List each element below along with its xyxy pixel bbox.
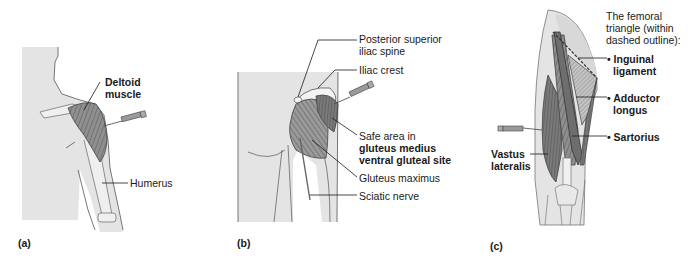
label-iliac-crest: Iliac crest (359, 64, 403, 76)
label-sartorius: • Sartorius (607, 131, 660, 143)
injection-sites-figure (0, 0, 698, 265)
label-sciatic-nerve: Sciatic nerve (359, 190, 419, 202)
label-gluteus-medius: gluteus medius (359, 142, 436, 154)
panel-c-thigh-illustration (498, 10, 607, 225)
label-inguinal-ligament-line2: ligament (613, 65, 656, 77)
label-posterior-superior-iliac-spine-line1: Posterior superior (359, 33, 442, 45)
label-femoral-triangle-line2: triangle (within (606, 22, 674, 34)
label-femoral-triangle-line3: dashed outline): (606, 34, 681, 46)
label-humerus: Humerus (130, 177, 173, 189)
panel-letter-b: (b) (237, 237, 250, 249)
label-adductor-longus-line2: longus (613, 104, 647, 116)
syringe-icon-a (104, 111, 146, 126)
label-safe-area-line1: Safe area in (359, 130, 416, 142)
label-deltoid-line1: Deltoid (105, 76, 141, 88)
syringe-icon-b (334, 81, 374, 104)
label-deltoid-line2: muscle (105, 88, 141, 100)
panel-letter-c: (c) (490, 240, 503, 252)
label-inguinal-ligament-line1: • Inguinal (607, 53, 654, 65)
panel-b-hip-illustration (238, 40, 374, 222)
label-ventral-gluteal-site: ventral gluteal site (359, 154, 451, 166)
label-gluteus-maximus: Gluteus maximus (359, 172, 440, 184)
label-vastus-lateralis-line1: Vastus (491, 148, 525, 160)
label-femoral-triangle-line1: The femoral (606, 10, 662, 22)
label-vastus-lateralis-line2: lateralis (491, 160, 531, 172)
label-adductor-longus-line1: • Adductor (607, 92, 660, 104)
panel-letter-a: (a) (18, 237, 31, 249)
label-posterior-superior-iliac-spine-line2: iliac spine (359, 45, 405, 57)
panel-a-shoulder-illustration (22, 47, 146, 232)
